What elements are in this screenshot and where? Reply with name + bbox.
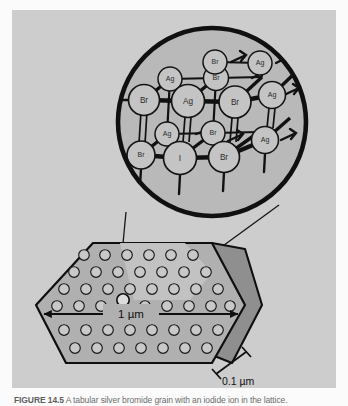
atom-iodide: I <box>164 142 197 175</box>
atom-br: Br <box>209 142 240 173</box>
svg-text:Ag: Ag <box>261 136 270 144</box>
svg-text:Br: Br <box>140 96 148 105</box>
figure-caption: FIGURE 14.5 A tabular silver bromide gra… <box>14 394 344 406</box>
tabular-crystal-grain <box>36 243 262 363</box>
width-dimension-label: 1 µm <box>118 308 144 320</box>
svg-text:Br: Br <box>231 98 239 107</box>
atom-ag: Ag <box>259 82 286 109</box>
svg-text:Ag: Ag <box>256 59 265 67</box>
svg-text:Br: Br <box>210 129 218 136</box>
svg-text:Ag: Ag <box>268 91 277 99</box>
figure-root: 1 µm 0.1 µm <box>0 0 348 406</box>
atom-br: Br <box>127 141 155 169</box>
atom-ag: Ag <box>172 85 205 118</box>
atom-br: Br <box>203 50 227 74</box>
atom-ag: Ag <box>248 51 272 75</box>
svg-text:Br: Br <box>138 151 146 158</box>
svg-text:Ag: Ag <box>183 97 193 106</box>
figure-illustration: 1 µm 0.1 µm <box>0 0 348 406</box>
svg-text:Ag: Ag <box>163 130 172 138</box>
figure-caption-text: A tabular silver bromide grain with an i… <box>64 395 288 405</box>
atom-br: Br <box>219 86 251 118</box>
atom-ag: Ag <box>252 127 279 154</box>
magnified-inset: Ag Br Br Ag <box>110 28 306 216</box>
atom-br: Br <box>129 85 160 116</box>
thickness-dimension-label: 0.1 µm <box>222 375 255 387</box>
svg-text:I: I <box>179 154 181 163</box>
svg-text:Br: Br <box>220 153 228 162</box>
svg-text:Br: Br <box>213 74 221 81</box>
svg-text:Br: Br <box>212 58 220 65</box>
figure-caption-label: FIGURE 14.5 <box>14 395 64 405</box>
svg-text:Ag: Ag <box>166 75 175 83</box>
